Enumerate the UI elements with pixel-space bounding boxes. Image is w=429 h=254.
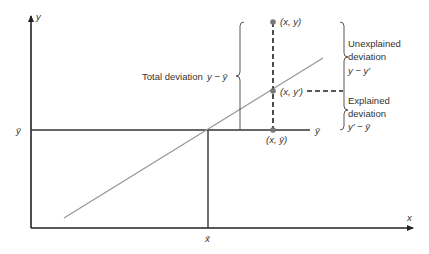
mean-point-label: (x, ȳ) xyxy=(266,134,287,145)
unexplained-deviation-formula: y − y′ xyxy=(347,65,371,76)
explained-deviation-line1: Explained xyxy=(348,95,390,106)
total-deviation-formula: y − ȳ xyxy=(206,71,229,82)
y-axis-label: y xyxy=(35,11,42,22)
y-axis: y xyxy=(31,11,42,228)
x-mean-line: x̄ xyxy=(204,130,211,244)
x-mean-axis-label: x̄ xyxy=(204,233,211,244)
unexplained-deviation-bracket xyxy=(340,22,348,91)
explained-deviation-bracket xyxy=(340,91,348,130)
unexplained-deviation-line1: Unexplained xyxy=(348,38,401,49)
y-mean-line-label: ȳ xyxy=(314,125,321,136)
total-deviation-bracket xyxy=(236,22,244,130)
observed-point xyxy=(270,19,276,25)
x-axis-label: x xyxy=(406,212,413,223)
diagram-canvas: y x ȳ ȳ x̄ (x, y) (x, y′) (x, ȳ) Total d… xyxy=(0,0,429,254)
x-axis: x xyxy=(31,212,413,228)
mean-point xyxy=(270,127,276,133)
total-deviation-label: Total deviation xyxy=(142,71,203,82)
observed-point-label: (x, y) xyxy=(280,16,301,27)
unexplained-deviation-line2: deviation xyxy=(348,51,386,62)
explained-deviation-line2: deviation xyxy=(348,108,386,119)
predicted-point xyxy=(270,88,276,94)
predicted-point-label: (x, y′) xyxy=(280,86,303,97)
y-mean-axis-label: ȳ xyxy=(15,125,22,136)
explained-deviation-formula: y′ − ȳ xyxy=(347,121,371,132)
